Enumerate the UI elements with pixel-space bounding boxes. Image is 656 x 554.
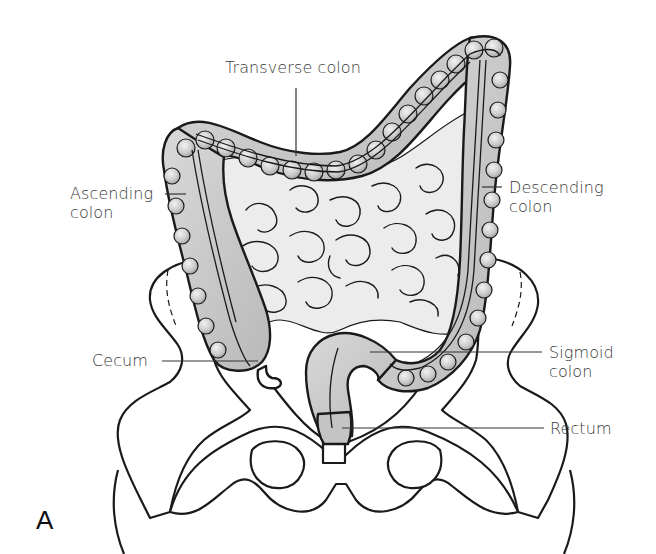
appendix xyxy=(258,366,281,388)
panel-letter: A xyxy=(36,506,53,534)
label-cecum: Cecum xyxy=(92,351,148,370)
left-obturator-foramen xyxy=(251,441,304,488)
label-rectum: Rectum xyxy=(550,419,612,438)
right-obturator-foramen xyxy=(388,441,441,488)
colon-diagram xyxy=(0,0,656,554)
label-ascending-colon: Ascending colon xyxy=(70,184,153,222)
label-descending-colon: Descending colon xyxy=(509,178,604,216)
label-sigmoid-colon: Sigmoid colon xyxy=(549,343,614,381)
label-transverse-colon: Transverse colon xyxy=(225,58,361,77)
